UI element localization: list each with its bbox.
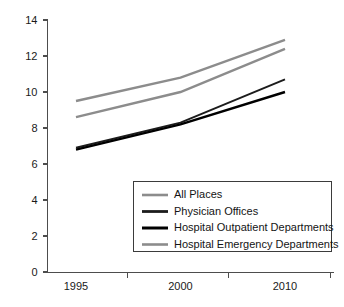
y-tick-label: 8 <box>31 122 37 134</box>
x-tick-label: 2010 <box>273 280 297 292</box>
x-tick-label: 1995 <box>64 280 88 292</box>
legend-label: Physician Offices <box>174 205 259 217</box>
chart-legend: All PlacesPhysician OfficesHospital Outp… <box>134 182 339 252</box>
line-chart: 02468101214 199520002010 All PlacesPhysi… <box>0 0 344 307</box>
y-tick-label: 14 <box>25 14 37 26</box>
y-tick-label: 4 <box>31 194 37 206</box>
legend-label: Hospital Outpatient Departments <box>174 221 334 233</box>
legend-label: Hospital Emergency Departments <box>174 238 339 250</box>
series-line <box>76 49 285 117</box>
series-line <box>76 79 285 147</box>
data-series-group <box>76 40 285 150</box>
y-tick-label: 10 <box>25 86 37 98</box>
series-line <box>76 92 285 150</box>
y-tick-label: 6 <box>31 158 37 170</box>
y-tick-label: 2 <box>31 230 37 242</box>
y-axis-ticks: 02468101214 <box>25 14 47 278</box>
legend-label: All Places <box>174 188 223 200</box>
y-tick-label: 0 <box>31 266 37 278</box>
y-tick-label: 12 <box>25 50 37 62</box>
x-tick-label: 2000 <box>168 280 192 292</box>
x-axis-ticks: 199520002010 <box>64 272 331 292</box>
chart-container: 02468101214 199520002010 All PlacesPhysi… <box>0 0 344 307</box>
